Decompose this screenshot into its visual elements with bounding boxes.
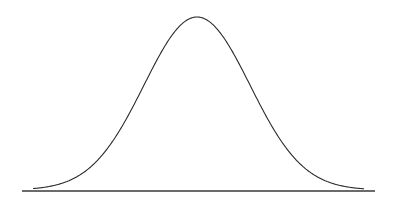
bell-curve-chart [0,0,395,207]
normal-distribution-curve [33,17,364,189]
